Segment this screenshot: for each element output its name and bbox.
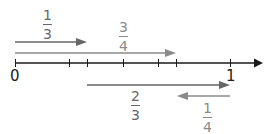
numerator: 3 <box>119 20 128 34</box>
numerator: 1 <box>43 8 52 22</box>
arrowhead-icon <box>165 49 176 57</box>
denominator: 4 <box>119 39 128 53</box>
fraction-bar <box>119 36 128 37</box>
arrowhead-icon <box>76 38 87 46</box>
fraction-bar <box>43 24 52 25</box>
arrow-two-thirds <box>87 81 230 89</box>
denominator: 3 <box>43 27 52 41</box>
arrowhead-icon <box>177 92 188 100</box>
label-zero: 0 <box>10 69 20 84</box>
fraction-one-third: 1 3 <box>43 8 52 41</box>
label-one: 1 <box>226 69 236 84</box>
denominator: 4 <box>203 120 212 134</box>
fraction-bar <box>131 105 140 106</box>
fraction-bar <box>203 117 212 118</box>
numerator: 1 <box>203 101 212 115</box>
fraction-three-quarters: 3 4 <box>119 20 128 53</box>
arrow-one-quarter <box>177 92 230 100</box>
fraction-one-quarter: 1 4 <box>203 101 212 134</box>
arrow-three-quarters <box>15 49 176 57</box>
fraction-two-thirds: 2 3 <box>131 89 140 122</box>
axis-arrowhead-icon <box>254 59 263 68</box>
numerator: 2 <box>131 89 140 103</box>
denominator: 3 <box>131 108 140 122</box>
